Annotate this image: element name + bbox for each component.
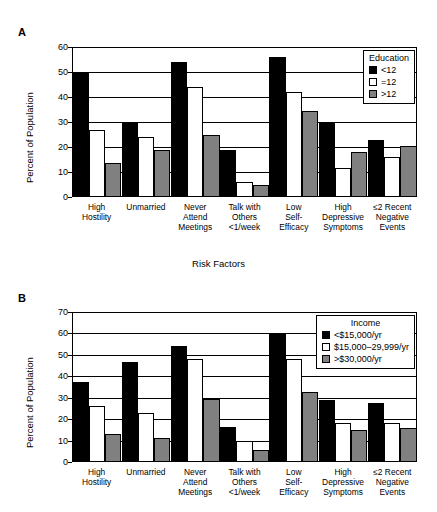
panel-b-x-axis-labels: High HostilityUnmarriedNever Attend Meet… <box>72 468 417 498</box>
y-axis-tick-label: 60 <box>58 329 68 338</box>
bar <box>286 92 302 197</box>
x-axis-category-label: Never Attend Meetings <box>171 203 220 233</box>
y-axis-tick-label: 50 <box>58 350 68 359</box>
bar <box>122 122 138 197</box>
y-axis-tick-label: 60 <box>58 43 68 52</box>
panel-a-letter: A <box>18 26 26 38</box>
legend-item-label: >$30,000/yr <box>334 353 382 365</box>
bar <box>368 403 384 462</box>
x-axis-category-label: Never Attend Meetings <box>171 468 220 498</box>
bar <box>319 400 335 462</box>
panel-b-legend-rows: <$15,000/yr$15,000–29,999/yr>$30,000/yr <box>322 329 409 365</box>
bar <box>203 399 219 462</box>
legend-item: <12 <box>369 64 409 76</box>
bar <box>335 423 351 462</box>
panel-a-legend: Education <12=12>12 <box>363 50 415 104</box>
legend-swatch-icon <box>322 355 330 363</box>
bar <box>203 135 219 198</box>
y-axis-tick-mark <box>68 197 72 198</box>
bar <box>302 111 318 197</box>
bar <box>220 427 236 462</box>
x-axis-category-label: High Depressive Symptoms <box>318 468 367 498</box>
bar-group <box>72 47 121 197</box>
bar <box>400 146 416 197</box>
x-axis-category-label: Talk with Others <1/week <box>220 468 269 498</box>
panel-a-legend-title: Education <box>369 53 409 63</box>
bar <box>253 185 269 198</box>
x-axis-category-label: Low Self- Efficacy <box>269 468 318 498</box>
bar <box>269 333 285 462</box>
bar <box>72 72 88 197</box>
legend-swatch-icon <box>369 78 377 86</box>
bar <box>351 430 367 462</box>
bar <box>187 87 203 197</box>
x-axis-category-label: ≤2 Recent Negative Events <box>368 468 417 498</box>
bar <box>220 150 236 198</box>
legend-item-label: <12 <box>381 64 396 76</box>
bar <box>105 163 121 197</box>
legend-item: >$30,000/yr <box>322 353 409 365</box>
bar-group <box>171 312 220 462</box>
bar-group <box>269 47 318 197</box>
bar <box>89 130 105 198</box>
bar <box>187 359 203 462</box>
y-axis-tick-label: 40 <box>58 372 68 381</box>
x-axis-category-label: Low Self- Efficacy <box>269 203 318 233</box>
bar <box>236 441 252 462</box>
bar <box>171 346 187 462</box>
bar <box>319 122 335 197</box>
bar <box>154 438 170 462</box>
bar <box>253 450 269 462</box>
y-axis-tick-mark <box>68 462 72 463</box>
bar-group <box>220 47 269 197</box>
legend-swatch-icon <box>369 90 377 98</box>
x-axis-category-label: Unmarried <box>121 203 170 233</box>
bar <box>122 362 138 462</box>
bar <box>368 140 384 198</box>
bar-group <box>171 47 220 197</box>
bar <box>72 382 88 462</box>
x-axis-category-label: High Hostility <box>72 468 121 498</box>
y-axis-tick-label: 30 <box>58 393 68 402</box>
bar-group <box>269 312 318 462</box>
bar <box>302 392 318 462</box>
bar <box>154 150 170 198</box>
panel-a: A Percent of Population 0102030405060 Ed… <box>0 0 437 256</box>
bar <box>286 359 302 462</box>
panel-b-legend-title: Income <box>322 318 409 328</box>
bar <box>269 57 285 197</box>
legend-swatch-icon <box>322 343 330 351</box>
bar-group <box>72 312 121 462</box>
bar-group <box>318 47 367 197</box>
legend-item-label: =12 <box>381 76 396 88</box>
y-axis-tick-label: 30 <box>58 118 68 127</box>
shared-x-axis-title: Risk Factors <box>0 258 437 269</box>
panel-b-letter: B <box>18 292 26 304</box>
legend-swatch-icon <box>369 66 377 74</box>
panel-a-x-axis-labels: High HostilityUnmarriedNever Attend Meet… <box>72 203 417 233</box>
bar <box>384 423 400 462</box>
bar <box>138 137 154 197</box>
bar <box>89 406 105 462</box>
y-axis-tick-label: 70 <box>58 308 68 317</box>
bar <box>138 413 154 462</box>
x-axis-category-label: High Depressive Symptoms <box>318 203 367 233</box>
x-axis-category-label: Unmarried <box>121 468 170 498</box>
x-axis-category-label: Talk with Others <1/week <box>220 203 269 233</box>
bar-group <box>121 312 170 462</box>
panel-b: B Percent of Population 010203040506070 … <box>0 272 437 512</box>
bar <box>335 168 351 197</box>
x-axis-category-label: High Hostility <box>72 203 121 233</box>
panel-a-y-axis-label: Percent of Population <box>24 92 35 183</box>
y-axis-tick-label: 10 <box>58 436 68 445</box>
panel-b-plot-area: 010203040506070 Income <$15,000/yr$15,00… <box>72 312 417 462</box>
legend-item-label: $15,000–29,999/yr <box>334 341 409 353</box>
legend-swatch-icon <box>322 331 330 339</box>
legend-item-label: >12 <box>381 88 396 100</box>
bar <box>384 157 400 197</box>
legend-item: $15,000–29,999/yr <box>322 341 409 353</box>
x-axis-category-label: ≤2 Recent Negative Events <box>368 203 417 233</box>
legend-item-label: <$15,000/yr <box>334 329 382 341</box>
legend-item: =12 <box>369 76 409 88</box>
bar <box>236 182 252 197</box>
